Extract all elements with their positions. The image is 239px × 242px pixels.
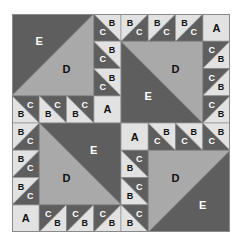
label-d: D <box>172 172 180 184</box>
label-c: C <box>136 209 143 219</box>
label-b: B <box>109 18 116 28</box>
label-c: C <box>209 100 216 110</box>
label-c: C <box>72 209 79 219</box>
label-c: C <box>163 27 170 37</box>
label-d: D <box>172 63 180 75</box>
label-b: B <box>72 109 79 119</box>
label-a: A <box>103 103 111 115</box>
label-b: B <box>18 182 25 192</box>
label-b: B <box>18 127 25 137</box>
label-e: E <box>199 199 206 211</box>
label-b: B <box>18 109 25 119</box>
label-c: C <box>209 73 216 83</box>
label-c: C <box>136 182 143 192</box>
label-c: C <box>27 163 34 173</box>
label-c: C <box>100 82 107 92</box>
label-a: A <box>212 22 220 34</box>
label-b: B <box>127 163 134 173</box>
label-c: C <box>154 136 161 146</box>
label-b: B <box>127 218 134 228</box>
label-b: B <box>18 154 25 164</box>
label-a: A <box>22 212 30 224</box>
label-b: B <box>81 218 88 228</box>
label-b: B <box>154 18 161 28</box>
label-b: B <box>109 45 116 55</box>
label-b: B <box>54 218 61 228</box>
label-b: B <box>109 218 116 228</box>
label-b: B <box>218 82 225 92</box>
label-d: D <box>63 63 71 75</box>
label-c: C <box>136 27 143 37</box>
label-c: C <box>100 54 107 64</box>
label-c: C <box>27 100 34 110</box>
label-b: B <box>127 191 134 201</box>
label-b: B <box>218 109 225 119</box>
label-b: B <box>181 18 188 28</box>
label-c: C <box>81 100 88 110</box>
label-a: A <box>131 131 139 143</box>
label-c: C <box>54 100 61 110</box>
label-b: B <box>190 127 197 137</box>
label-c: C <box>100 27 107 37</box>
label-b: B <box>127 18 134 28</box>
label-b: B <box>109 73 116 83</box>
label-e: E <box>36 35 43 47</box>
label-c: C <box>27 136 34 146</box>
label-c: C <box>136 154 143 164</box>
label-c: C <box>100 209 107 219</box>
label-b: B <box>218 54 225 64</box>
quilt-block-svg: EDACBCBCBCBCBCBEDACBCBCBCBCBCBEDACBCBCBC… <box>12 14 230 232</box>
label-b: B <box>218 127 225 137</box>
label-b: B <box>163 127 170 137</box>
label-c: C <box>209 45 216 55</box>
label-c: C <box>45 209 52 219</box>
label-b: B <box>45 109 52 119</box>
label-e: E <box>145 90 152 102</box>
label-c: C <box>27 191 34 201</box>
label-c: C <box>181 136 188 146</box>
label-e: E <box>90 144 97 156</box>
quilt-block-diagram: EDACBCBCBCBCBCBEDACBCBCBCBCBCBEDACBCBCBC… <box>12 14 230 236</box>
label-c: C <box>209 136 216 146</box>
label-c: C <box>190 27 197 37</box>
label-d: D <box>63 172 71 184</box>
